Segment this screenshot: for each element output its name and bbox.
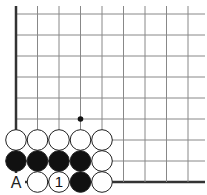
black-stone [70, 172, 91, 193]
white-stone [92, 172, 113, 193]
white-stone [6, 130, 27, 151]
black-stone [27, 151, 48, 172]
star-points [78, 116, 84, 122]
white-stone [92, 130, 113, 151]
white-stone-labeled: 1 [49, 172, 70, 193]
white-stone [27, 130, 48, 151]
white-stone [49, 130, 70, 151]
black-stone [70, 151, 91, 172]
point-labels: A [7, 173, 25, 191]
black-stone [6, 151, 27, 172]
point-label: A [11, 174, 22, 191]
white-stone [70, 130, 91, 151]
go-board: 1 A [0, 0, 207, 195]
move-number: 1 [55, 173, 63, 190]
white-stone [92, 151, 113, 172]
star-point-icon [78, 116, 84, 122]
white-stone [27, 172, 48, 193]
black-stone [49, 151, 70, 172]
